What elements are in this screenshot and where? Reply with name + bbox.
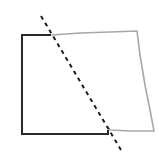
fold-diagram <box>0 0 158 152</box>
background <box>0 0 158 152</box>
